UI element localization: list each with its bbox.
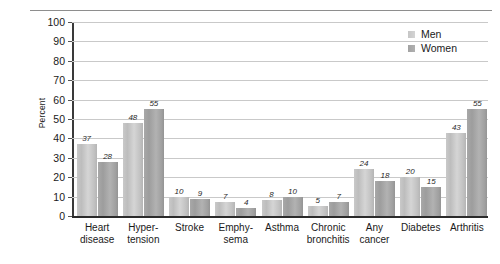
y-tick-label: 100: [47, 16, 65, 28]
bar-value-label: 9: [198, 189, 202, 198]
x-category-label-line1: Arthritis: [450, 222, 484, 233]
legend-label: Women: [421, 42, 457, 54]
x-category-label-line2: cancer: [337, 234, 411, 246]
y-tick-mark: [68, 100, 72, 101]
y-tick-label: 80: [53, 55, 65, 67]
bar-value-label: 20: [406, 167, 415, 176]
bar-men: 48: [123, 123, 143, 216]
header-divider: [30, 10, 492, 11]
bar-women: 18: [375, 181, 395, 216]
legend-item-women: Women: [408, 41, 457, 55]
bar-men: 24: [354, 169, 374, 216]
y-tick-mark: [68, 158, 72, 159]
bar-value-label: 8: [269, 190, 273, 199]
bar-group: 4855: [123, 22, 164, 216]
bar-men: 43: [446, 133, 466, 216]
bar-chart-figure: Percent 0102030405060708090100 372848551…: [0, 0, 500, 264]
bar-women: 7: [329, 202, 349, 216]
x-category-label-line1: Any: [366, 222, 383, 233]
y-tick-label: 40: [53, 132, 65, 144]
bar-value-label: 10: [175, 187, 184, 196]
y-tick-label: 30: [53, 152, 65, 164]
y-tick-label: 20: [53, 171, 65, 183]
bar-value-label: 55: [473, 99, 482, 108]
y-tick-label: 60: [53, 94, 65, 106]
x-category-label: Arthritis: [430, 222, 500, 234]
bar-women: 15: [421, 187, 441, 216]
bar-women: 10: [283, 197, 303, 216]
bar-men: 37: [77, 144, 97, 216]
y-tick-mark: [68, 119, 72, 120]
y-tick-mark: [68, 22, 72, 23]
legend-swatch-icon: [408, 45, 415, 52]
bar-value-label: 37: [82, 134, 91, 143]
y-tick-mark: [68, 41, 72, 42]
y-tick-label: 50: [53, 113, 65, 125]
bar-value-label: 10: [288, 187, 297, 196]
y-tick-label: 70: [53, 74, 65, 86]
chart-legend: MenWomen: [408, 27, 457, 55]
bar-value-label: 5: [315, 196, 319, 205]
bar-value-label: 7: [223, 192, 227, 201]
x-category-label-line2: sema: [199, 234, 273, 246]
bar-women: 4: [236, 208, 256, 216]
y-tick-mark: [68, 216, 72, 217]
y-tick-label: 10: [53, 191, 65, 203]
bar-group: 810: [262, 22, 303, 216]
x-category-label-line2: tension: [106, 234, 180, 246]
y-tick-mark: [68, 61, 72, 62]
bar-value-label: 18: [380, 171, 389, 180]
bar-men: 7: [215, 202, 235, 216]
x-axis-line: [72, 216, 488, 218]
y-tick-mark: [68, 197, 72, 198]
y-axis-title: Percent: [37, 63, 47, 163]
bar-women: 55: [144, 109, 164, 216]
bar-group: 57: [308, 22, 349, 216]
bar-value-label: 43: [452, 123, 461, 132]
bar-women: 9: [190, 199, 210, 216]
bar-value-label: 28: [103, 152, 112, 161]
bar-value-label: 24: [359, 159, 368, 168]
bar-group: 2418: [354, 22, 395, 216]
bar-men: 10: [169, 197, 189, 216]
bar-value-label: 48: [128, 113, 137, 122]
y-tick-label: 90: [53, 35, 65, 47]
bar-women: 28: [98, 162, 118, 216]
bar-group: 3728: [77, 22, 118, 216]
y-tick-mark: [68, 80, 72, 81]
bar-value-label: 4: [244, 198, 248, 207]
bar-group: 109: [169, 22, 210, 216]
bar-group: 74: [215, 22, 256, 216]
legend-swatch-icon: [408, 31, 415, 38]
bar-men: 5: [308, 206, 328, 216]
bar-value-label: 55: [149, 99, 158, 108]
legend-item-men: Men: [408, 27, 457, 41]
bar-value-label: 7: [336, 192, 340, 201]
bar-women: 55: [467, 109, 487, 216]
legend-label: Men: [421, 28, 441, 40]
y-tick-mark: [68, 177, 72, 178]
y-tick-mark: [68, 138, 72, 139]
bar-men: 20: [400, 177, 420, 216]
y-tick-label: 0: [59, 210, 65, 222]
bar-men: 8: [262, 200, 282, 216]
bar-value-label: 15: [427, 177, 436, 186]
